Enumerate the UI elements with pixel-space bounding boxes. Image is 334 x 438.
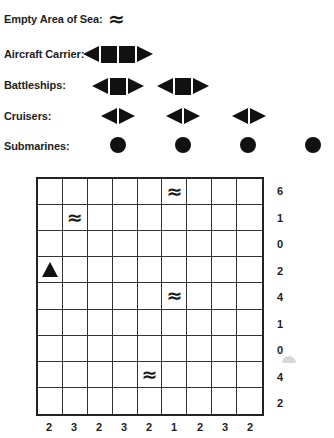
grid-cell-r7-c6[interactable] — [162, 336, 187, 362]
grid-cell-r7-c5[interactable] — [138, 336, 163, 362]
grid-cell-r6-c1[interactable] — [38, 310, 63, 336]
grid-cell-r2-c3[interactable] — [88, 205, 113, 231]
grid-cell-r7-c9[interactable] — [237, 336, 262, 362]
grid-cell-r3-c9[interactable] — [237, 231, 262, 257]
ship-segment-icon — [175, 78, 191, 95]
ship-segment-icon — [119, 46, 135, 63]
grid-cell-r5-c1[interactable] — [38, 283, 63, 309]
grid-cell-r1-c6[interactable]: ≈ — [162, 179, 187, 205]
grid-cell-r5-c2[interactable] — [63, 283, 88, 309]
grid-cell-r2-c8[interactable] — [212, 205, 237, 231]
grid-cell-r9-c4[interactable] — [113, 388, 138, 414]
grid-cell-r3-c2[interactable] — [63, 231, 88, 257]
grid-cell-r6-c4[interactable] — [113, 310, 138, 336]
grid-cell-r6-c9[interactable] — [237, 310, 262, 336]
grid-cell-r4-c6[interactable] — [162, 257, 187, 283]
grid-cell-r4-c1[interactable] — [38, 257, 63, 283]
grid-cell-r8-c9[interactable] — [237, 362, 262, 388]
grid-cell-r3-c8[interactable] — [212, 231, 237, 257]
grid-cell-r5-c4[interactable] — [113, 283, 138, 309]
grid-cell-r8-c7[interactable] — [187, 362, 212, 388]
grid-cell-r6-c7[interactable] — [187, 310, 212, 336]
grid-cell-r8-c8[interactable] — [212, 362, 237, 388]
legend-battleships-label: Battleships: — [4, 79, 66, 92]
grid-cell-r1-c8[interactable] — [212, 179, 237, 205]
grid-cell-r6-c2[interactable] — [63, 310, 88, 336]
grid-cell-r6-c6[interactable] — [162, 310, 187, 336]
grid-cell-r8-c4[interactable] — [113, 362, 138, 388]
grid-cell-r2-c1[interactable] — [38, 205, 63, 231]
grid-cell-r3-c6[interactable] — [162, 231, 187, 257]
legend-submarines-label: Submarines: — [4, 140, 70, 153]
wave-icon: ≈ — [166, 182, 182, 201]
grid-cell-r2-c7[interactable] — [187, 205, 212, 231]
grid-cell-r4-c9[interactable] — [237, 257, 262, 283]
grid-cell-r2-c6[interactable] — [162, 205, 187, 231]
grid-cell-r8-c5[interactable]: ≈ — [138, 362, 163, 388]
grid-cell-r1-c7[interactable] — [187, 179, 212, 205]
grid-cell-r9-c9[interactable] — [237, 388, 262, 414]
col-clue: 2 — [42, 421, 56, 434]
grid-cell-r7-c8[interactable] — [212, 336, 237, 362]
grid-cell-r7-c3[interactable] — [88, 336, 113, 362]
grid-cell-r1-c5[interactable] — [138, 179, 163, 205]
grid-cell-r2-c9[interactable] — [237, 205, 262, 231]
ship-bow-left-icon — [101, 108, 117, 124]
row-clue: 6 — [275, 185, 285, 198]
grid-cell-r1-c3[interactable] — [88, 179, 113, 205]
grid-cell-r2-c2[interactable]: ≈ — [63, 205, 88, 231]
row-clue: 0 — [275, 238, 285, 251]
grid-cell-r2-c4[interactable] — [113, 205, 138, 231]
grid-cell-r4-c3[interactable] — [88, 257, 113, 283]
legend-empty-sea-label: Empty Area of Sea: — [4, 13, 103, 26]
grid-cell-r4-c5[interactable] — [138, 257, 163, 283]
grid-cell-r3-c1[interactable] — [38, 231, 63, 257]
grid-cell-r5-c3[interactable] — [88, 283, 113, 309]
row-clue: 4 — [275, 371, 285, 384]
ship-bow-left-icon — [166, 108, 182, 124]
grid-cell-r8-c1[interactable] — [38, 362, 63, 388]
grid-cell-r2-c5[interactable] — [138, 205, 163, 231]
grid-cell-r9-c3[interactable] — [88, 388, 113, 414]
grid-cell-r5-c5[interactable] — [138, 283, 163, 309]
grid-cell-r1-c2[interactable] — [63, 179, 88, 205]
grid-cell-r9-c1[interactable] — [38, 388, 63, 414]
row-clue: 0 — [275, 344, 285, 357]
grid-cell-r4-c8[interactable] — [212, 257, 237, 283]
col-clue: 2 — [193, 421, 207, 434]
grid-cell-r1-c4[interactable] — [113, 179, 138, 205]
grid-cell-r7-c2[interactable] — [63, 336, 88, 362]
grid-cell-r9-c5[interactable] — [138, 388, 163, 414]
grid-cell-r3-c5[interactable] — [138, 231, 163, 257]
grid-cell-r8-c3[interactable] — [88, 362, 113, 388]
ship-stern-right-icon — [193, 78, 209, 94]
grid-cell-r6-c3[interactable] — [88, 310, 113, 336]
grid-cell-r3-c3[interactable] — [88, 231, 113, 257]
grid-cell-r9-c2[interactable] — [63, 388, 88, 414]
submarine-icon — [175, 137, 191, 153]
grid-cell-r9-c7[interactable] — [187, 388, 212, 414]
grid-cell-r6-c5[interactable] — [138, 310, 163, 336]
grid-cell-r4-c2[interactable] — [63, 257, 88, 283]
grid-cell-r7-c7[interactable] — [187, 336, 212, 362]
row-clue: 4 — [275, 291, 285, 304]
grid-cell-r8-c2[interactable] — [63, 362, 88, 388]
grid-cell-r3-c7[interactable] — [187, 231, 212, 257]
grid-cell-r5-c6[interactable]: ≈ — [162, 283, 187, 309]
grid-cell-r9-c6[interactable] — [162, 388, 187, 414]
grid-cell-r4-c7[interactable] — [187, 257, 212, 283]
grid-cell-r6-c8[interactable] — [212, 310, 237, 336]
col-clue: 3 — [218, 421, 232, 434]
grid-cell-r7-c1[interactable] — [38, 336, 63, 362]
grid-cell-r1-c9[interactable] — [237, 179, 262, 205]
ship-bow-left-icon — [157, 78, 173, 94]
grid-cell-r5-c9[interactable] — [237, 283, 262, 309]
grid-cell-r4-c4[interactable] — [113, 257, 138, 283]
grid-cell-r9-c8[interactable] — [212, 388, 237, 414]
grid-cell-r1-c1[interactable] — [38, 179, 63, 205]
grid-cell-r5-c7[interactable] — [187, 283, 212, 309]
grid-cell-r5-c8[interactable] — [212, 283, 237, 309]
grid-cell-r7-c4[interactable] — [113, 336, 138, 362]
grid-cell-r3-c4[interactable] — [113, 231, 138, 257]
grid-cell-r8-c6[interactable] — [162, 362, 187, 388]
